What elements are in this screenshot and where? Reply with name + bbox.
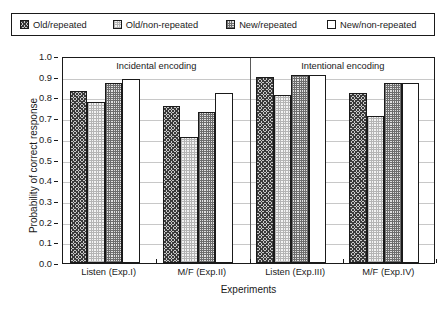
x-tick-mark — [156, 259, 157, 263]
y-tick-mark — [54, 223, 58, 224]
y-tick-mark — [54, 161, 58, 162]
x-tick-mark — [250, 259, 251, 263]
x-tick-mark — [343, 259, 344, 263]
y-tick-mark — [54, 78, 58, 79]
legend-label-old-non-repeated: Old/non-repeated — [126, 20, 198, 30]
y-tick-mark — [54, 98, 58, 99]
annotation-intentional-encoding: Intentional encoding — [250, 61, 437, 71]
y-axis-title: Probability of correct response — [28, 71, 39, 261]
chart-legend: Old/repeated Old/non-repeated New/repeat… — [11, 13, 435, 36]
y-tick-label: 0.7 — [39, 114, 52, 124]
y-tick-label: 0.9 — [39, 73, 52, 83]
legend-swatch-icon-old-repeated — [20, 20, 29, 29]
legend-item-new-non-repeated: New/non-repeated — [327, 20, 417, 30]
legend-label-new-non-repeated: New/non-repeated — [340, 20, 417, 30]
y-tick-mark — [54, 202, 58, 203]
y-tick-mark — [54, 57, 58, 58]
y-tick-label: 1.0 — [39, 52, 52, 62]
x-category-label: M/F (Exp.IV) — [362, 267, 414, 277]
y-tick-mark — [54, 264, 58, 265]
x-tick-marks — [63, 58, 434, 263]
y-tick-label: 0.5 — [39, 156, 52, 166]
y-tick-mark — [54, 181, 58, 182]
legend-label-old-repeated: Old/repeated — [33, 20, 87, 30]
y-tick-label: 0.8 — [39, 93, 52, 103]
y-tick-label: 0.3 — [39, 197, 52, 207]
x-category-label: M/F (Exp.II) — [178, 267, 227, 277]
x-category-label: Listen (Exp.III) — [265, 267, 325, 277]
y-tick-label: 0.1 — [39, 238, 52, 248]
legend-swatch-icon-new-non-repeated — [327, 20, 336, 29]
y-tick-label: 0.2 — [39, 218, 52, 228]
y-tick-label: 0.0 — [39, 259, 52, 269]
legend-item-old-non-repeated: Old/non-repeated — [113, 20, 198, 30]
legend-item-new-repeated: New/repeated — [226, 20, 297, 30]
y-tick-label: 0.6 — [39, 135, 52, 145]
y-tick-mark — [54, 119, 58, 120]
legend-swatch-icon-new-repeated — [226, 20, 235, 29]
x-axis-title: Experiments — [62, 284, 435, 295]
legend-item-old-repeated: Old/repeated — [20, 20, 87, 30]
x-tick-mark — [436, 259, 437, 263]
legend-label-new-repeated: New/repeated — [239, 20, 297, 30]
x-category-label: Listen (Exp.I) — [81, 267, 136, 277]
y-tick-label: 0.4 — [39, 176, 52, 186]
x-axis-category-labels: Listen (Exp.I)M/F (Exp.II)Listen (Exp.II… — [62, 267, 435, 281]
annotation-incidental-encoding: Incidental encoding — [63, 61, 250, 71]
plot-area: Incidental encoding Intentional encoding — [62, 57, 435, 264]
y-tick-mark — [54, 243, 58, 244]
legend-swatch-icon-old-non-repeated — [113, 20, 122, 29]
y-tick-mark — [54, 140, 58, 141]
